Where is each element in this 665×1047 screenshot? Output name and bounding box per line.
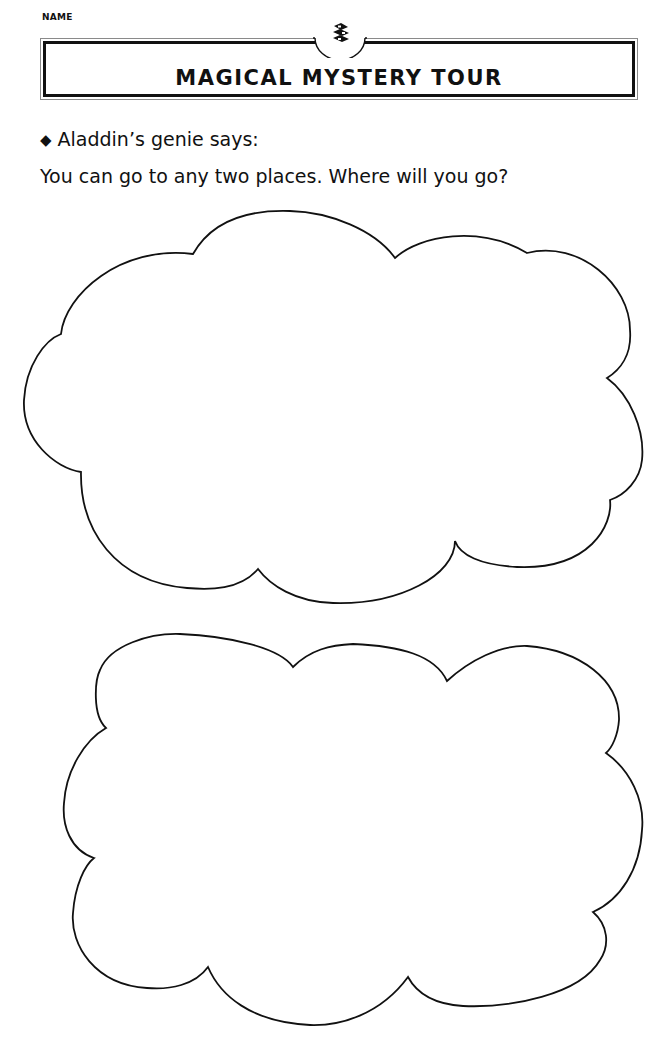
- cloud-outline-2[interactable]: [64, 634, 643, 1025]
- prompt-intro: ◆Aladdin’s genie says:: [40, 128, 259, 150]
- name-label: NAME: [42, 12, 73, 22]
- stacked-layers-icon: [313, 22, 367, 58]
- prompt-question: You can go to any two places. Where will…: [40, 165, 508, 187]
- prompt-intro-text: Aladdin’s genie says:: [58, 128, 259, 150]
- page-title: MAGICAL MYSTERY TOUR: [46, 66, 632, 90]
- cloud-outline-1[interactable]: [24, 211, 642, 603]
- diamond-bullet-icon: ◆: [40, 131, 52, 149]
